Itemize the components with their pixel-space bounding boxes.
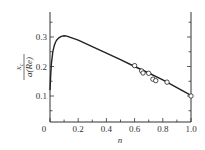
x-axis-title: n xyxy=(118,135,123,145)
axes xyxy=(50,12,191,122)
data-point-marker xyxy=(132,63,136,67)
theory-curve xyxy=(50,36,191,96)
y-axis-title-denominator: a(Re) xyxy=(24,57,34,77)
x-tick-label: 0 xyxy=(42,124,47,134)
x-tick-label: 0.6 xyxy=(129,124,141,134)
y-tick-label: 0.2 xyxy=(36,62,47,72)
x-tick-label: 1.0 xyxy=(185,124,197,134)
chart: 00.20.40.60.81.0 0.10.20.3 n xc a(Re) xyxy=(0,0,205,150)
y-axis-ticks: 0.10.20.3 xyxy=(36,22,191,111)
y-axis-title: xc a(Re) xyxy=(13,54,34,80)
data-point-marker xyxy=(189,94,193,98)
y-axis-title-numerator: xc xyxy=(13,63,24,71)
x-tick-label: 0.8 xyxy=(157,124,169,134)
data-point-marker xyxy=(165,80,169,84)
x-axis-ticks: 00.20.40.60.81.0 xyxy=(42,118,197,134)
y-tick-label: 0.1 xyxy=(36,91,47,101)
theory-curve-path xyxy=(50,36,191,96)
y-tick-label: 0.3 xyxy=(36,32,48,42)
x-tick-label: 0.2 xyxy=(73,124,84,134)
data-point-marker xyxy=(141,71,145,75)
x-tick-label: 0.4 xyxy=(101,124,113,134)
data-point-marker xyxy=(147,71,151,75)
experimental-data-points xyxy=(132,63,193,98)
data-point-marker xyxy=(154,78,158,82)
